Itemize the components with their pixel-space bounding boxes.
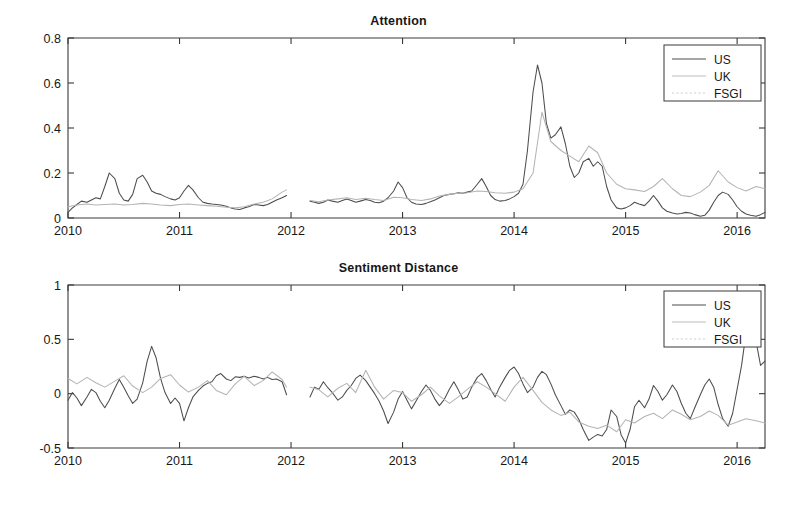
x-tick-label: 2014 xyxy=(500,224,528,238)
legend-label-us: US xyxy=(714,53,731,67)
figure-root: Attention 00.20.40.60.820102011201220132… xyxy=(0,0,797,505)
x-tick-label: 2016 xyxy=(723,224,751,238)
plot-sentiment: -0.500.512010201120122013201420152016USU… xyxy=(0,250,797,505)
x-tick-label: 2012 xyxy=(277,454,305,468)
panel-attention: Attention 00.20.40.60.820102011201220132… xyxy=(0,0,797,250)
x-tick-label: 2010 xyxy=(54,224,82,238)
x-tick-label: 2010 xyxy=(54,454,82,468)
series-line-us xyxy=(68,315,765,443)
y-tick-label: 0.8 xyxy=(44,32,61,46)
x-tick-label: 2011 xyxy=(166,224,193,238)
x-tick-label: 2015 xyxy=(612,224,640,238)
legend-label-fsgi: FSGI xyxy=(714,87,742,101)
y-tick-label: 0.5 xyxy=(44,333,61,347)
x-tick-label: 2012 xyxy=(277,224,305,238)
x-tick-label: 2014 xyxy=(500,454,528,468)
legend-label-us: US xyxy=(714,299,731,313)
legend-label-fsgi: FSGI xyxy=(714,333,742,347)
legend: USUKFSGI xyxy=(664,291,761,347)
x-tick-label: 2011 xyxy=(166,454,193,468)
y-tick-label: 0.2 xyxy=(44,167,61,181)
y-tick-label: 0 xyxy=(54,387,61,401)
y-tick-label: 0.4 xyxy=(44,122,61,136)
plot-attention: 00.20.40.60.8201020112012201320142015201… xyxy=(0,0,797,250)
panel-sentiment: Sentiment Distance -0.500.51201020112012… xyxy=(0,250,797,505)
series-line-us xyxy=(68,65,765,216)
x-tick-label: 2013 xyxy=(389,224,417,238)
legend-label-uk: UK xyxy=(714,316,731,330)
series-line-uk xyxy=(68,112,765,208)
legend: USUKFSGI xyxy=(664,45,761,101)
y-tick-label: 0.6 xyxy=(44,77,61,91)
x-tick-label: 2016 xyxy=(723,454,751,468)
legend-label-uk: UK xyxy=(714,70,731,84)
x-tick-label: 2013 xyxy=(389,454,417,468)
x-tick-label: 2015 xyxy=(612,454,640,468)
y-tick-label: 1 xyxy=(54,279,61,293)
